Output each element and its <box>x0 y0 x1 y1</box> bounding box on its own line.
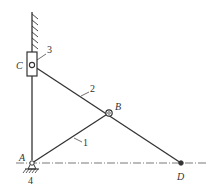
leader-3 <box>37 54 46 60</box>
link-1 <box>32 113 109 163</box>
label-1: 1 <box>83 137 88 148</box>
label-D: D <box>176 171 185 182</box>
pin-B-inner <box>108 112 111 115</box>
label-A: A <box>18 152 26 163</box>
leader-2 <box>81 92 89 96</box>
vertical-guide <box>32 12 38 160</box>
leader-1 <box>74 138 82 142</box>
pin-C <box>29 62 34 67</box>
label-B: B <box>115 101 121 112</box>
mechanism-diagram: C 3 2 B 1 A 4 D <box>0 0 222 196</box>
label-3: 3 <box>47 44 52 55</box>
label-4: 4 <box>28 175 33 186</box>
ground-hatching-top <box>32 14 38 49</box>
pin-D <box>179 161 184 166</box>
label-C: C <box>16 60 23 71</box>
label-2: 2 <box>90 83 95 94</box>
